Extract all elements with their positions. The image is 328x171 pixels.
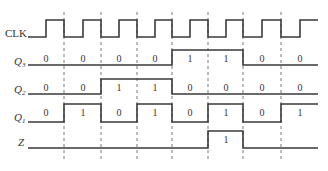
svg-text:1: 1 [117,82,122,93]
svg-text:0: 0 [153,53,158,64]
svg-text:0: 0 [188,82,193,93]
svg-text:0: 0 [298,82,303,93]
svg-text:0: 0 [188,107,193,118]
svg-text:0: 0 [260,107,265,118]
svg-text:1: 1 [188,53,193,64]
svg-text:1: 1 [224,134,229,145]
svg-text:0: 0 [224,82,229,93]
clk-waveform [28,20,318,37]
clk-label: CLK [5,27,27,39]
svg-text:1: 1 [298,107,303,118]
q1-label: Q1 [14,111,25,125]
q3-label: Q3 [14,55,26,69]
svg-text:1: 1 [153,107,158,118]
svg-text:0: 0 [44,82,49,93]
q3-waveform [28,50,318,65]
q1-values: 0 1 0 1 0 1 0 1 [44,107,303,118]
q3-values: 0 0 0 0 1 1 0 0 [44,53,303,64]
svg-text:0: 0 [260,82,265,93]
svg-text:1: 1 [224,53,229,64]
svg-text:0: 0 [298,53,303,64]
svg-text:1: 1 [224,107,229,118]
svg-text:0: 0 [81,82,86,93]
svg-text:1: 1 [81,107,86,118]
svg-text:0: 0 [81,53,86,64]
svg-text:0: 0 [44,107,49,118]
svg-text:1: 1 [153,82,158,93]
svg-text:0: 0 [260,53,265,64]
svg-text:0: 0 [44,53,49,64]
q1-waveform [28,104,318,122]
q2-waveform [28,79,318,94]
svg-text:0: 0 [117,53,122,64]
z-values: 1 [224,134,229,145]
svg-text:0: 0 [117,107,122,118]
timing-diagram: CLK Q3 Q2 Q1 Z 0 0 0 0 1 1 0 0 0 0 1 1 0… [0,0,328,171]
z-label: Z [18,136,25,148]
q2-label: Q2 [14,83,26,97]
q2-values: 0 0 1 1 0 0 0 0 [44,82,303,93]
z-waveform [28,131,318,148]
